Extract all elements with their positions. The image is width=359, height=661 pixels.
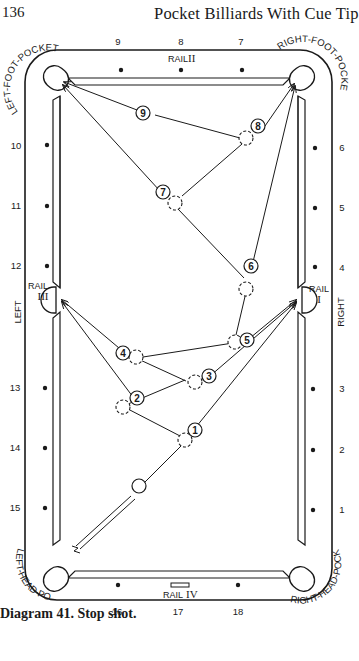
pocket-right-head bbox=[285, 562, 319, 596]
cushions bbox=[53, 78, 305, 578]
svg-text:6: 6 bbox=[339, 142, 344, 153]
svg-text:6: 6 bbox=[248, 261, 254, 272]
svg-text:9: 9 bbox=[115, 36, 120, 47]
right-side-pocket-label: RIGHT bbox=[335, 297, 346, 327]
rail-1-numeral: I bbox=[317, 293, 321, 305]
left-side-pocket-label: LEFT bbox=[12, 300, 23, 323]
svg-text:7: 7 bbox=[238, 36, 243, 47]
rail-4-numeral: IV bbox=[186, 588, 198, 600]
table-outer-frame bbox=[25, 50, 332, 600]
svg-text:3: 3 bbox=[339, 383, 344, 394]
figure-caption: Diagram 41. Stop shot. bbox=[0, 606, 137, 622]
svg-text:2: 2 bbox=[339, 444, 344, 455]
ball-3: 3 bbox=[202, 369, 216, 383]
rail-4-word: RAIL bbox=[163, 590, 183, 600]
rail-2-word: RAIL bbox=[168, 54, 188, 64]
ball-2: 2 bbox=[130, 391, 144, 405]
cue-stick bbox=[72, 496, 135, 553]
svg-text:17: 17 bbox=[173, 606, 184, 617]
cue-ball bbox=[132, 479, 146, 493]
rail-2-numeral: II bbox=[188, 52, 196, 64]
rail-3-numeral: III bbox=[38, 290, 49, 302]
svg-text:14: 14 bbox=[10, 442, 21, 453]
shot-paths bbox=[62, 82, 296, 486]
svg-text:12: 12 bbox=[11, 260, 22, 271]
svg-text:4: 4 bbox=[339, 262, 344, 273]
svg-text:8: 8 bbox=[255, 121, 261, 132]
svg-text:9: 9 bbox=[140, 108, 146, 119]
ball-7: 7 bbox=[156, 185, 170, 199]
svg-text:15: 15 bbox=[10, 502, 21, 513]
svg-text:4: 4 bbox=[120, 348, 126, 359]
svg-text:1: 1 bbox=[339, 504, 344, 515]
svg-text:2: 2 bbox=[134, 393, 140, 404]
svg-text:11: 11 bbox=[11, 200, 21, 211]
svg-text:7: 7 bbox=[160, 187, 166, 198]
svg-text:8: 8 bbox=[178, 36, 183, 47]
ball-4: 4 bbox=[116, 346, 130, 360]
ball-6: 6 bbox=[244, 259, 258, 273]
ball-1: 1 bbox=[188, 423, 202, 437]
svg-text:13: 13 bbox=[10, 382, 21, 393]
svg-text:1: 1 bbox=[192, 425, 198, 436]
svg-text:5: 5 bbox=[244, 335, 250, 346]
ball-8: 8 bbox=[251, 119, 265, 133]
svg-text:5: 5 bbox=[339, 202, 344, 213]
pockets bbox=[39, 61, 319, 596]
svg-text:3: 3 bbox=[206, 371, 212, 382]
ball-9: 9 bbox=[136, 106, 150, 120]
svg-text:18: 18 bbox=[233, 606, 244, 617]
svg-text:10: 10 bbox=[11, 140, 22, 151]
ball-5: 5 bbox=[240, 333, 254, 347]
head-spot-marker bbox=[171, 583, 189, 587]
